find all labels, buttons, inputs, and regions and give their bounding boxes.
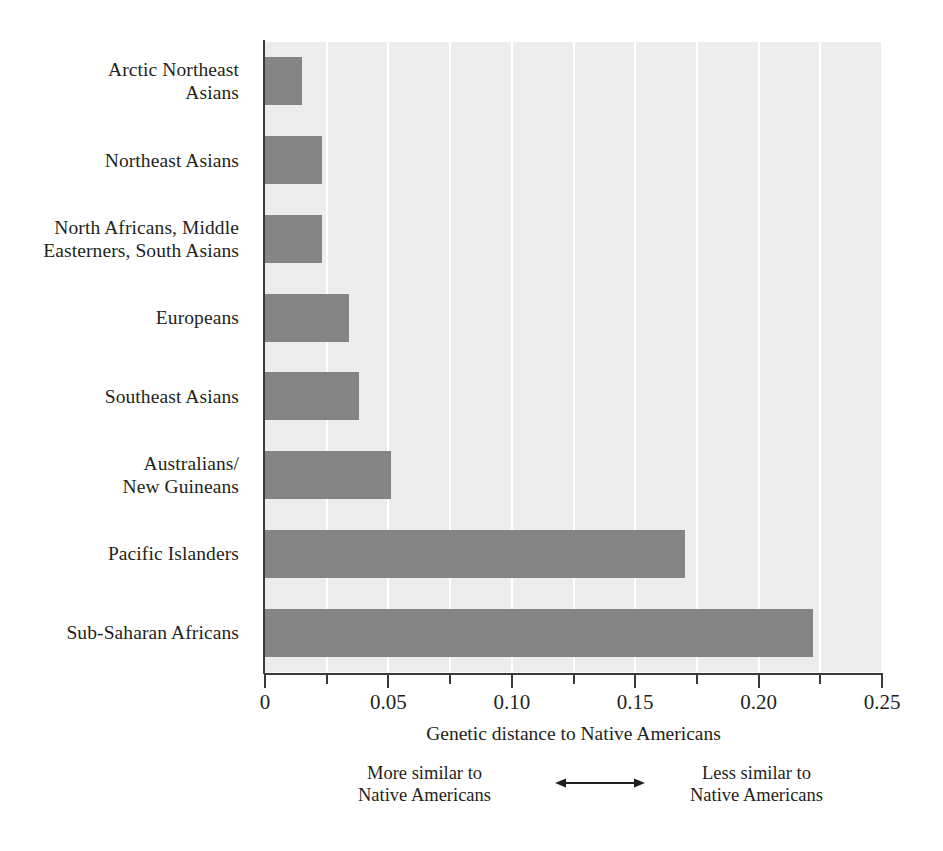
genetic-distance-bar-chart: Arctic Northeast AsiansNortheast AsiansN… [0,0,943,851]
category-label: North Africans, Middle Easterners, South… [0,216,253,262]
annotation-more-similar: More similar to Native Americans [317,762,532,806]
x-axis-major-tick [511,673,513,688]
x-axis-tick-label: 0.05 [370,690,407,714]
gridline [696,42,698,672]
category-label: Northeast Asians [0,149,253,172]
x-axis-minor-tick [819,673,821,684]
x-axis-tick-label: 0.20 [740,690,777,714]
annotation-less-similar: Less similar to Native Americans [649,762,864,806]
x-axis-minor-tick [573,673,575,684]
category-label: Europeans [0,306,253,329]
gridline [881,42,883,672]
bar [265,451,391,499]
bar [265,609,813,657]
x-axis-major-tick [264,673,266,688]
similarity-annotation: More similar to Native Americans Less si… [265,762,882,822]
category-label: Pacific Islanders [0,542,253,565]
category-label: Arctic Northeast Asians [0,58,253,104]
bar [265,530,685,578]
category-axis-labels: Arctic Northeast AsiansNortheast AsiansN… [0,42,253,672]
bar [265,136,322,184]
bar [265,294,349,342]
x-axis-minor-tick [449,673,451,684]
category-label: Australians/ New Guineans [0,452,253,498]
category-label: Sub-Saharan Africans [0,621,253,644]
bar [265,215,322,263]
x-axis-tick-label: 0.25 [864,690,901,714]
gridline [758,42,760,672]
bar [265,57,302,105]
x-axis-major-tick [758,673,760,688]
x-axis-minor-tick [696,673,698,684]
bar [265,372,359,420]
x-axis-major-tick [634,673,636,688]
x-axis-minor-tick [326,673,328,684]
x-axis-tick-label: 0 [260,690,271,714]
x-axis-title: Genetic distance to Native Americans [265,723,882,745]
plot-area [265,42,882,672]
x-axis-tick-label: 0.15 [617,690,654,714]
x-axis-major-tick [881,673,883,688]
y-axis-line [263,40,265,674]
gridline [819,42,821,672]
x-axis-major-tick [387,673,389,688]
category-label: Southeast Asians [0,385,253,408]
double-arrow-icon [555,776,645,790]
x-axis-tick-label: 0.10 [493,690,530,714]
